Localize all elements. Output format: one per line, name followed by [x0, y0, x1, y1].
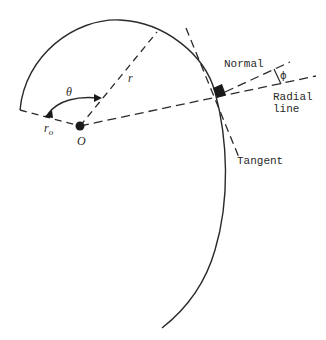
spiral-curve: [20, 20, 226, 328]
r0-sub: o: [49, 127, 54, 137]
r-line: [80, 32, 157, 126]
spiral-diagram: [0, 0, 326, 340]
theta-arc: [48, 98, 98, 114]
r0-label: ro: [44, 122, 53, 138]
theta-label: θ: [66, 86, 72, 98]
radial-line-label-1: Radial: [273, 91, 313, 103]
tangent-label: Tangent: [237, 155, 283, 167]
normal-label: Normal: [224, 58, 264, 70]
radial-line-label-2: line: [273, 103, 299, 115]
r-label: r: [128, 72, 133, 84]
origin-dot: [76, 122, 85, 131]
origin-label: O: [77, 135, 86, 147]
theta-arrow-right-icon: [94, 94, 102, 102]
theta-arrow-left-icon: [44, 110, 53, 118]
phi-label: ϕ: [280, 70, 287, 82]
